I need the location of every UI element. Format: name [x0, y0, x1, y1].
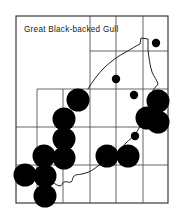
record-dot-large — [53, 147, 76, 170]
map-canvas: Great Black-backed Gull — [0, 0, 182, 215]
record-dot-small — [130, 91, 138, 99]
record-dot-small — [152, 39, 160, 47]
record-dot-large — [14, 164, 37, 187]
record-dot-large — [33, 145, 56, 168]
record-dot-large — [34, 185, 57, 208]
record-dot-large — [34, 165, 57, 188]
record-dot-large — [117, 145, 140, 168]
record-dot-small — [131, 132, 139, 140]
record-dot-large — [147, 90, 170, 113]
record-dot-large — [53, 108, 76, 131]
species-distribution-map: Great Black-backed Gull — [0, 0, 182, 215]
map-title: Great Black-backed Gull — [24, 25, 119, 34]
record-dot-small — [112, 75, 120, 83]
record-dot-large — [67, 89, 90, 112]
record-dot-large — [96, 145, 119, 168]
record-dot-large — [147, 111, 170, 134]
